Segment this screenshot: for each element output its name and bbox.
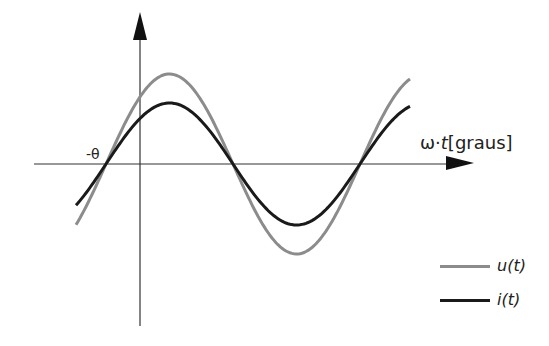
legend-swatch-u — [440, 265, 490, 268]
legend-swatch-i — [440, 299, 490, 302]
x-axis-arrow-icon — [446, 156, 474, 170]
x-axis-label: ω·t[graus] — [420, 132, 513, 153]
plot-area — [0, 0, 549, 346]
x-label-omega: ω· — [420, 132, 441, 153]
x-label-t: t — [441, 132, 448, 153]
legend-label-i: i(t) — [497, 290, 520, 309]
phase-label: -θ — [86, 146, 100, 162]
phase-diagram: ω·t[graus] -θ u(t) i(t) — [0, 0, 549, 346]
x-label-unit: [graus] — [448, 132, 513, 153]
legend-label-u: u(t) — [497, 256, 526, 275]
y-axis-arrow-icon — [133, 12, 147, 40]
